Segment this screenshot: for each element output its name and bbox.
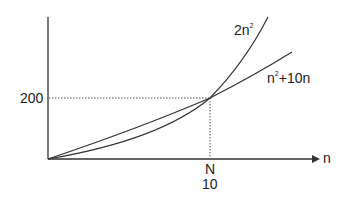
x-marker-bottom-label: 10: [202, 177, 218, 191]
curve-n2-plus-10n: [48, 52, 292, 159]
series-label-2n2: 2n2: [234, 23, 253, 37]
chart-canvas: [0, 0, 341, 201]
x-axis-arrow-icon: [312, 155, 320, 163]
y-marker-label: 200: [20, 91, 43, 105]
x-axis-label: n: [323, 151, 331, 165]
series-label-n2-plus-10n: n2+10n: [267, 71, 310, 85]
curve-2n2: [48, 17, 268, 159]
x-marker-top-label: N: [205, 162, 215, 176]
